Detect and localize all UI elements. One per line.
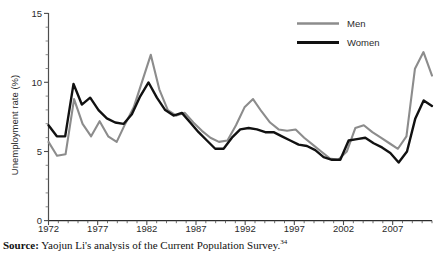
source-label: Source: bbox=[3, 239, 39, 251]
line-chart-svg: Unemployment rate (%) 15 10 5 0 bbox=[0, 0, 437, 232]
x-tick-label-1987: 1987 bbox=[185, 223, 206, 232]
y-tick-label-15: 15 bbox=[31, 8, 42, 19]
legend-label-women: Women bbox=[347, 37, 380, 48]
x-tick-label-1997: 1997 bbox=[284, 223, 305, 232]
source-footnote-marker: 34 bbox=[280, 238, 287, 246]
y-tick-labels: 15 10 5 0 bbox=[31, 8, 42, 226]
chart-plot-area: Unemployment rate (%) 15 10 5 0 bbox=[0, 0, 437, 232]
x-tick-label-2007: 2007 bbox=[382, 223, 403, 232]
source-text: Yaojun Li's analysis of the Current Popu… bbox=[39, 239, 280, 251]
x-tick-label-1972: 1972 bbox=[38, 223, 59, 232]
x-tick-label-2002: 2002 bbox=[333, 223, 354, 232]
y-tick-label-10: 10 bbox=[31, 77, 42, 88]
source-caption: Source: Yaojun Li's analysis of the Curr… bbox=[3, 236, 433, 252]
x-tick-labels: 19721977198219871992199720022007 bbox=[38, 223, 403, 232]
y-axis-title: Unemployment rate (%) bbox=[9, 75, 20, 175]
y-major-ticks bbox=[44, 13, 49, 220]
chart-legend: Men Women bbox=[297, 18, 380, 48]
figure-container: Unemployment rate (%) 15 10 5 0 bbox=[0, 0, 437, 256]
x-tick-label-1982: 1982 bbox=[136, 223, 157, 232]
x-tick-label-1977: 1977 bbox=[87, 223, 108, 232]
y-tick-label-5: 5 bbox=[37, 146, 42, 157]
x-tick-label-1992: 1992 bbox=[235, 223, 256, 232]
data-line-women bbox=[49, 82, 433, 162]
legend-label-men: Men bbox=[347, 18, 365, 29]
